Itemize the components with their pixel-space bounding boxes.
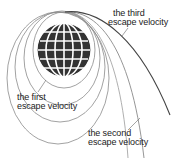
label-first-line2: escape velocity <box>17 102 77 111</box>
label-second-line2: escape velocity <box>88 138 148 147</box>
label-third-escape-velocity: the third escape velocity <box>108 9 168 27</box>
label-third-line2: escape velocity <box>108 18 168 27</box>
globe-icon <box>37 23 91 77</box>
label-second-escape-velocity: the second escape velocity <box>88 129 148 147</box>
label-first-escape-velocity: the first escape velocity <box>17 93 77 111</box>
